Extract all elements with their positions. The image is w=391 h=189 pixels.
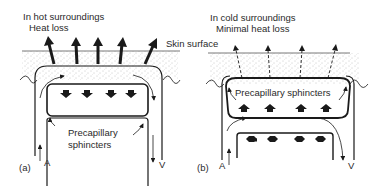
panel-a-artery-label: A <box>44 158 50 168</box>
diffusion-arrows-b-bottom <box>246 136 326 142</box>
diffusion-arrows-b-top <box>238 104 332 112</box>
panel-a-sphincter-line1: Precapillary <box>68 128 118 138</box>
skin-surface-label: Skin surface <box>166 39 218 49</box>
panel-a-sphincter-line2: sphincters <box>68 140 111 150</box>
panel-a-title-line1: In hot surroundings <box>23 12 104 22</box>
capillary-bed-a <box>47 84 148 116</box>
panel-b-artery-label: A <box>219 161 225 171</box>
panel-b-letter: (b) <box>197 163 209 173</box>
panel-a-vein-label: V <box>159 160 165 170</box>
panel-b-title-line2: Minimal heat loss <box>216 24 289 34</box>
panel-a-letter: (a) <box>19 163 31 173</box>
panel-a-title-line2: Heat loss <box>29 23 69 33</box>
panel-b-vein-label: V <box>348 161 354 171</box>
panel-b-sphincter-label: Precapillary sphincters <box>235 88 331 98</box>
skin-layer-b <box>210 53 360 84</box>
diffusion-arrows-a <box>60 90 137 98</box>
panel-b-title-line1: In cold surroundings <box>210 13 296 23</box>
panel-b <box>206 44 368 165</box>
